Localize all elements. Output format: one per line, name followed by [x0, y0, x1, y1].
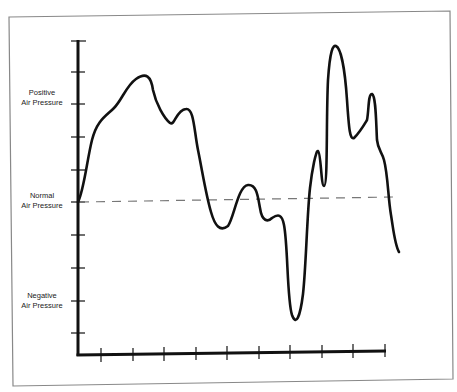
label-positive-line2: Air Pressure	[21, 98, 62, 107]
label-negative-air-pressure: Negative Air Pressure	[21, 291, 62, 310]
label-negative-line2: Air Pressure	[21, 301, 62, 310]
label-normal-line2: Air Pressure	[21, 201, 62, 210]
air-pressure-diagram: Positive Air Pressure Normal Air Pressur…	[0, 0, 457, 392]
label-normal-line1: Normal	[30, 191, 55, 200]
label-negative-line1: Negative	[27, 291, 57, 300]
frame-border	[9, 11, 453, 386]
label-positive-line1: Positive	[29, 88, 55, 97]
